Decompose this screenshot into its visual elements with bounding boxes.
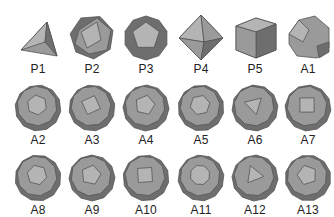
polyhedron-label: A4 (118, 133, 174, 147)
polyhedron-cell: A4 (118, 79, 174, 151)
octahedron-icon (176, 12, 226, 62)
polyhedron-cell: A9 (64, 149, 120, 217)
archimedean-solid-icon (283, 83, 333, 133)
archimedean-solid-icon (67, 83, 117, 133)
polyhedron-label: P4 (173, 62, 229, 76)
polyhedron-label: A1 (280, 62, 334, 76)
polyhedron-label: A6 (227, 133, 283, 147)
polyhedron-cell: P3 (118, 8, 174, 80)
polyhedron-label: A2 (10, 133, 66, 147)
polyhedron-label: A10 (118, 203, 174, 217)
polyhedron-cell: A2 (10, 79, 66, 151)
truncated-tetrahedron-icon (283, 12, 333, 62)
polyhedron-cell: P4 (173, 8, 229, 80)
archimedean-solid-icon (230, 153, 280, 203)
polyhedron-cell: A10 (118, 149, 174, 217)
dodecahedron-icon (121, 12, 171, 62)
archimedean-solid-icon (283, 153, 333, 203)
polyhedron-label: P5 (227, 62, 283, 76)
polyhedron-cell: A12 (227, 149, 283, 217)
polyhedron-cell: A13 (280, 149, 334, 217)
tetrahedron-icon (13, 12, 63, 62)
archimedean-solid-icon (176, 83, 226, 133)
polyhedron-label: P3 (118, 62, 174, 76)
polyhedron-cell: P2 (64, 8, 120, 80)
archimedean-solid-icon (13, 83, 63, 133)
polyhedron-cell: A7 (280, 79, 334, 151)
polyhedron-cell: P5 (227, 8, 283, 80)
polyhedron-cell: A3 (64, 79, 120, 151)
polyhedron-cell: A6 (227, 79, 283, 151)
archimedean-solid-icon (121, 153, 171, 203)
polyhedron-label: A13 (280, 203, 334, 217)
polyhedron-label: P1 (10, 62, 66, 76)
archimedean-solid-icon (230, 83, 280, 133)
cube-icon (230, 12, 280, 62)
polyhedron-label: A9 (64, 203, 120, 217)
archimedean-solid-icon (13, 153, 63, 203)
polyhedron-cell: A1 (280, 8, 334, 80)
archimedean-solid-icon (121, 83, 171, 133)
polyhedron-label: A5 (173, 133, 229, 147)
polyhedron-label: A3 (64, 133, 120, 147)
polyhedron-label: A11 (173, 203, 229, 217)
polyhedron-label: A12 (227, 203, 283, 217)
polyhedron-cell: P1 (10, 8, 66, 80)
polyhedron-cell: A5 (173, 79, 229, 151)
icosahedron-icon (67, 12, 117, 62)
polyhedron-label: A7 (280, 133, 334, 147)
polyhedron-cell: A11 (173, 149, 229, 217)
archimedean-solid-icon (67, 153, 117, 203)
archimedean-solid-icon (176, 153, 226, 203)
polyhedron-cell: A8 (10, 149, 66, 217)
polyhedron-label: P2 (64, 62, 120, 76)
polyhedron-label: A8 (10, 203, 66, 217)
